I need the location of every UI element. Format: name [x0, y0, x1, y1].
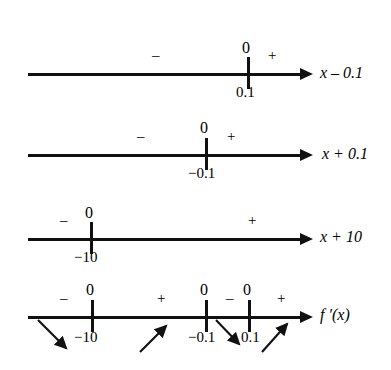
sign-label-4-4: + [277, 291, 285, 306]
slope-arrow-increasing-2 [262, 324, 287, 352]
slope-arrow-decreasing-1 [38, 320, 66, 348]
tick-value-label-4-3: 0.1 [241, 330, 260, 345]
tick-value-label-4-1: −10 [74, 330, 97, 345]
expression-label-1: x – 0.1 [320, 65, 363, 81]
axis-arrowhead-3 [300, 233, 313, 245]
tick-value-label-3-1: −10 [74, 250, 97, 265]
sign-label-3-1: – [60, 213, 68, 228]
axis-line-2 [28, 154, 300, 157]
axis-arrowhead-1 [300, 68, 313, 80]
tick-zero-label-2-1: 0 [200, 120, 208, 136]
slope-arrow-increasing-1 [140, 326, 166, 352]
tick-zero-label-4-2: 0 [200, 282, 208, 298]
axis-line-1 [28, 73, 300, 76]
slope-arrow-decreasing-2 [216, 320, 239, 344]
sign-label-4-2: + [157, 291, 165, 306]
tick-zero-label-1-1: 0 [242, 40, 250, 56]
sign-label-2-1: – [137, 129, 145, 144]
derivative-label-4: f ′(x) [320, 307, 350, 323]
expression-label-2: x + 0.1 [322, 146, 368, 162]
axis-arrowhead-2 [300, 149, 313, 161]
axis-line-4 [28, 316, 300, 319]
sign-label-1-1: – [152, 48, 160, 63]
sign-label-2-2: + [227, 129, 235, 144]
tick-mark-4-3 [248, 300, 251, 332]
axis-line-3 [28, 238, 300, 241]
tick-zero-label-3-1: 0 [85, 205, 93, 221]
sign-label-3-2: + [248, 213, 256, 228]
expression-label-3: x + 10 [320, 229, 362, 245]
axis-arrowhead-4 [300, 311, 313, 323]
tick-zero-label-4-1: 0 [86, 282, 94, 298]
tick-zero-label-4-3: 0 [243, 282, 251, 298]
tick-value-label-2-1: −0.1 [188, 166, 215, 181]
sign-label-1-2: + [268, 48, 276, 63]
tick-mark-4-2 [205, 300, 208, 332]
sign-label-4-1: – [60, 291, 68, 306]
tick-value-label-1-1: 0.1 [236, 85, 255, 100]
tick-mark-4-1 [91, 300, 94, 332]
sign-label-4-3: – [226, 291, 234, 306]
sign-chart-figure: 0 0.1 – + x – 0.1 0 −0.1 – + x + 0.1 0 −… [0, 0, 391, 370]
tick-value-label-4-2: −0.1 [188, 330, 215, 345]
